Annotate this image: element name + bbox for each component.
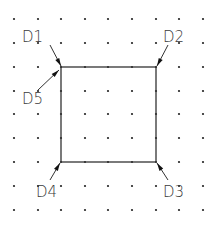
grid-dot xyxy=(84,113,86,115)
grid-dot xyxy=(37,209,39,211)
diagram-svg: D1D2D3D4D5 xyxy=(0,0,217,225)
grid-dot xyxy=(202,113,204,115)
grid-dot xyxy=(131,90,133,92)
grid-dot xyxy=(107,42,109,44)
arrowhead-icon xyxy=(157,163,163,171)
callout-label: D1 xyxy=(22,28,43,46)
grid-dot xyxy=(60,42,62,44)
grid-dot xyxy=(202,209,204,211)
callout-d1: D1 xyxy=(22,28,61,66)
callout-label: D5 xyxy=(22,90,43,108)
grid-dot xyxy=(178,90,180,92)
grid-dot xyxy=(155,42,157,44)
grid-dot xyxy=(107,137,109,139)
grid-dot xyxy=(37,66,39,68)
grid-dot xyxy=(107,18,109,20)
callouts: D1D2D3D4D5 xyxy=(22,28,184,201)
grid-dot xyxy=(84,137,86,139)
grid-dot xyxy=(178,113,180,115)
grid-dot xyxy=(202,185,204,187)
grid-dot xyxy=(131,185,133,187)
grid-dot xyxy=(178,209,180,211)
grid-dot xyxy=(202,137,204,139)
grid-dot xyxy=(60,18,62,20)
grid-dot xyxy=(13,185,15,187)
grid-dot xyxy=(131,209,133,211)
grid-dot xyxy=(202,90,204,92)
grid-dot xyxy=(37,137,39,139)
arrowhead-icon xyxy=(55,58,61,66)
callout-label: D4 xyxy=(36,183,57,201)
grid-dot xyxy=(131,137,133,139)
grid-dot xyxy=(155,209,157,211)
grid-dot xyxy=(37,113,39,115)
grid-dot xyxy=(13,18,15,20)
grid-dot xyxy=(202,161,204,163)
grid-dot xyxy=(60,209,62,211)
grid-dot xyxy=(202,18,204,20)
grid-dot xyxy=(13,66,15,68)
grid-dot xyxy=(13,113,15,115)
grid-dot xyxy=(155,185,157,187)
diagram-canvas: D1D2D3D4D5 xyxy=(0,0,217,225)
grid-dot xyxy=(202,66,204,68)
grid-dot xyxy=(60,185,62,187)
grid-dot xyxy=(37,161,39,163)
callout-label: D3 xyxy=(163,183,184,201)
callout-d4: D4 xyxy=(36,163,60,201)
grid-dot xyxy=(107,113,109,115)
grid-dot xyxy=(107,185,109,187)
grid-dot xyxy=(84,90,86,92)
arrowhead-icon xyxy=(157,58,163,66)
callout-d2: D2 xyxy=(157,28,184,66)
grid-dot xyxy=(13,161,15,163)
grid-dot xyxy=(84,185,86,187)
grid-dot xyxy=(155,18,157,20)
grid-dot xyxy=(131,42,133,44)
grid-dot xyxy=(84,42,86,44)
grid-dot xyxy=(13,137,15,139)
grid-dot xyxy=(202,42,204,44)
grid-dot xyxy=(13,90,15,92)
callout-label: D2 xyxy=(163,28,184,46)
grid-dot xyxy=(84,18,86,20)
grid-dot xyxy=(178,66,180,68)
grid-dot xyxy=(13,42,15,44)
callout-d3: D3 xyxy=(157,163,184,201)
grid-dot xyxy=(84,209,86,211)
grid-dot xyxy=(131,18,133,20)
grid-dot xyxy=(107,90,109,92)
grid-dot xyxy=(178,18,180,20)
grid-dot xyxy=(178,161,180,163)
grid-dot xyxy=(131,113,133,115)
callout-d5: D5 xyxy=(22,70,59,108)
grid-dot xyxy=(13,209,15,211)
grid-dot xyxy=(107,209,109,211)
arrowhead-icon xyxy=(54,163,60,171)
grid-dot xyxy=(37,18,39,20)
grid-dot xyxy=(178,137,180,139)
